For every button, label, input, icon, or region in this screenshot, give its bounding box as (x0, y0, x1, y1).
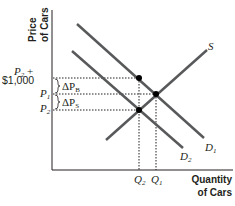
p2-plus-label-line2: $1,000 (2, 74, 34, 86)
delta-ps-label: ΔPS (62, 96, 79, 110)
p1-label: P1 (39, 87, 50, 101)
brace-sellers (55, 95, 60, 109)
demand-curve-d1 (77, 24, 204, 138)
point-buyers-price (136, 75, 142, 81)
y-axis-title-line2: of Cars (39, 7, 50, 42)
q2-label: Q2 (134, 173, 146, 187)
p2-label: P2 (39, 102, 51, 116)
x-axis-title-line2: of Cars (198, 187, 233, 198)
y-axis-title-line1: Price (27, 17, 38, 42)
demand-curve-d2 (72, 51, 183, 148)
point-original-equilibrium (153, 91, 159, 97)
brace-buyers (55, 79, 60, 93)
point-sellers-price (136, 107, 142, 113)
supply-label: S (208, 40, 214, 52)
d1-label: D1 (204, 141, 216, 155)
x-axis-title-line1: Quantity (191, 174, 232, 185)
supply-demand-diagram: Price of Cars S D1 D2 P2 + $1,000 P1 P2 … (0, 0, 235, 206)
q1-label: Q1 (151, 173, 162, 187)
delta-pb-label: ΔPB (62, 80, 80, 94)
d2-label: D2 (179, 150, 192, 164)
